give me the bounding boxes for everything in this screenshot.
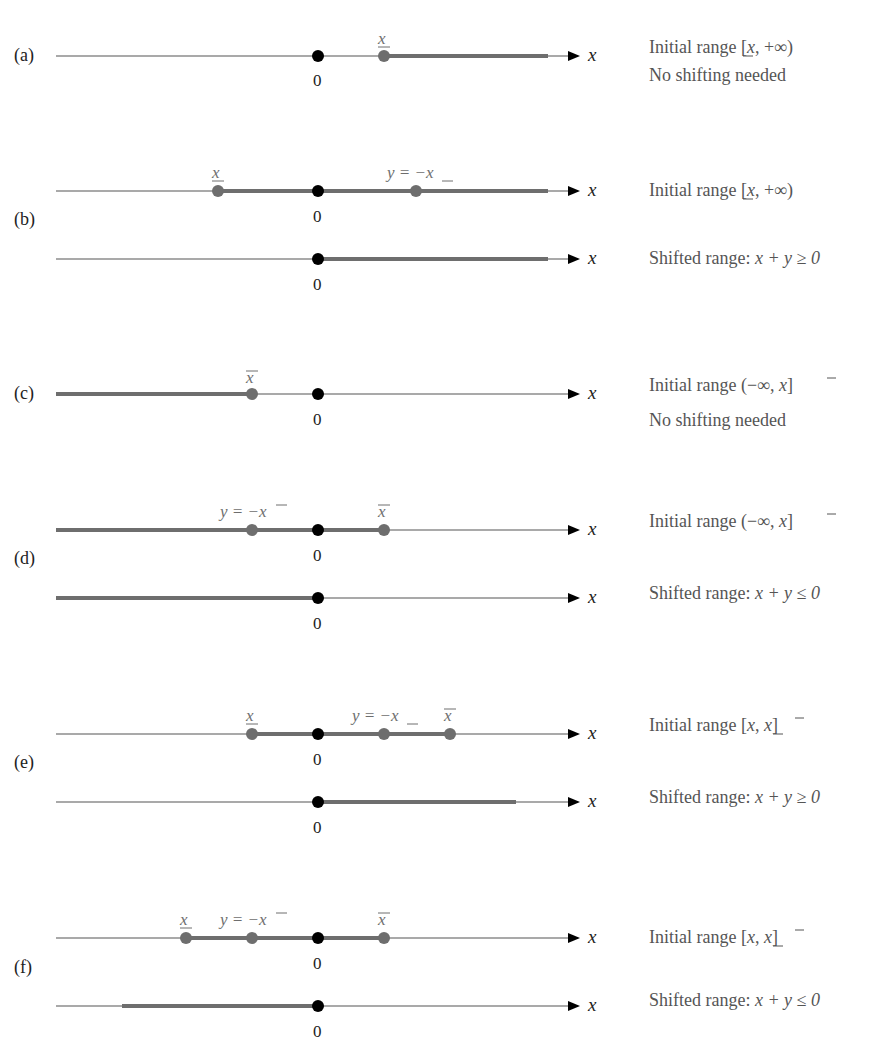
x-lower-label: x — [245, 706, 254, 725]
zero-label: 0 — [313, 546, 322, 565]
panel-label-d: (d) — [14, 548, 35, 569]
x-lower-label: x — [377, 29, 386, 48]
zero-point — [312, 50, 324, 62]
y-neg-x-upper-label: y = −x — [218, 502, 267, 521]
initial-range-text: Initial range [x, +∞) — [649, 37, 793, 58]
x-upper-point — [246, 388, 258, 400]
axis-variable-label: x — [587, 382, 597, 403]
zero-label: 0 — [313, 207, 322, 226]
axis-variable-label: x — [587, 179, 597, 200]
range-shifting-diagram: (a) x 0 x Initial range [x, +∞) No shift… — [0, 0, 891, 1058]
initial-range-text: Initial range [x, x] — [649, 927, 778, 947]
y-neg-x-lower-label: y = −x — [385, 163, 434, 182]
x-upper-label: x — [443, 706, 452, 725]
shifted-range-text: Shifted range: x + y ≥ 0 — [649, 248, 820, 268]
initial-range-text: Initial range [x, +∞) — [649, 180, 793, 201]
zero-point — [312, 932, 324, 944]
y-neg-x-upper-point — [246, 524, 258, 536]
panel-e: (e) x y = −x x 0 x Initial range [x, x] … — [14, 706, 820, 837]
x-upper-label: x — [377, 910, 386, 929]
initial-range-text: Initial range (−∞, x] — [649, 511, 793, 532]
zero-label: 0 — [313, 818, 322, 837]
no-shift-note: No shifting needed — [649, 65, 786, 85]
zero-point — [312, 592, 324, 604]
x-upper-point — [378, 932, 390, 944]
panel-label-a: (a) — [14, 45, 34, 66]
axis-variable-label: x — [587, 994, 597, 1015]
axis-variable-label: x — [587, 586, 597, 607]
zero-point — [312, 728, 324, 740]
panel-a: (a) x 0 x Initial range [x, +∞) No shift… — [14, 29, 793, 90]
x-lower-point — [246, 728, 258, 740]
shifted-range-text: Shifted range: x + y ≤ 0 — [649, 583, 820, 603]
x-lower-point — [378, 50, 390, 62]
panel-label-b: (b) — [14, 209, 35, 230]
zero-label: 0 — [313, 750, 322, 769]
x-upper-label: x — [245, 368, 254, 387]
zero-label: 0 — [313, 275, 322, 294]
zero-label: 0 — [313, 410, 322, 429]
axis-variable-label: x — [587, 247, 597, 268]
zero-point — [312, 253, 324, 265]
axis-variable-label: x — [587, 926, 597, 947]
panel-c: (c) x 0 x Initial range (−∞, x] No shift… — [14, 368, 836, 430]
x-upper-point — [444, 728, 456, 740]
panel-b: (b) x y = −x 0 x Initial range [x, +∞) 0… — [14, 163, 820, 294]
zero-point — [312, 524, 324, 536]
zero-point — [312, 185, 324, 197]
zero-point — [312, 1000, 324, 1012]
y-neg-x-upper-point — [246, 932, 258, 944]
zero-point — [312, 796, 324, 808]
initial-range-text: Initial range (−∞, x] — [649, 375, 793, 396]
panel-label-c: (c) — [14, 383, 34, 404]
panel-label-e: (e) — [14, 752, 34, 773]
x-lower-label: x — [179, 910, 188, 929]
panel-d: (d) y = −x x 0 x Initial range (−∞, x] 0… — [14, 502, 836, 633]
x-upper-point — [378, 524, 390, 536]
panel-label-f: (f) — [14, 957, 32, 978]
x-lower-point — [180, 932, 192, 944]
shifted-range-text: Shifted range: x + y ≤ 0 — [649, 990, 820, 1010]
zero-label: 0 — [313, 614, 322, 633]
x-upper-label: x — [377, 502, 386, 521]
initial-range-text: Initial range [x, x] — [649, 715, 778, 735]
zero-label: 0 — [313, 954, 322, 973]
axis-variable-label: x — [587, 518, 597, 539]
zero-label: 0 — [313, 1022, 322, 1041]
y-neg-x-lower-point — [378, 728, 390, 740]
y-neg-x-lower-point — [410, 185, 422, 197]
x-lower-label: x — [211, 163, 220, 182]
x-lower-point — [212, 185, 224, 197]
y-neg-x-upper-label: y = −x — [218, 910, 267, 929]
y-neg-x-lower-label: y = −x — [350, 706, 399, 725]
zero-label: 0 — [313, 71, 322, 90]
axis-variable-label: x — [587, 44, 597, 65]
axis-variable-label: x — [587, 790, 597, 811]
axis-variable-label: x — [587, 722, 597, 743]
no-shift-note: No shifting needed — [649, 410, 786, 430]
shifted-range-text: Shifted range: x + y ≥ 0 — [649, 787, 820, 807]
zero-point — [312, 388, 324, 400]
panel-f: (f) x y = −x x 0 x Initial range [x, x] … — [14, 910, 820, 1041]
